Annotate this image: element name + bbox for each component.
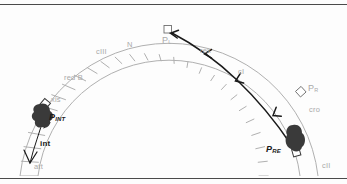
protein-blobs	[32, 103, 305, 151]
gene-label-N: N	[127, 41, 133, 49]
gene-label-att: att	[34, 163, 43, 171]
gene-label-int: int	[40, 140, 50, 148]
transcript-curve	[172, 33, 292, 146]
transcript-arrowheads	[171, 30, 300, 148]
promoter-box-PR[interactable]	[295, 86, 306, 97]
promoter-PRE-subscript: RE	[272, 148, 281, 154]
promoter-markers	[40, 26, 306, 157]
blob-re	[286, 125, 305, 152]
gene-label-cro: cro	[309, 106, 320, 114]
promoter-PR-subscript: R	[314, 87, 318, 93]
ring-outer-arc	[20, 43, 318, 176]
gene-label-cIII: cIII	[96, 48, 107, 56]
gene-label-rex: rex	[200, 47, 211, 55]
genome-ring	[20, 43, 318, 176]
gene-label-cII: cII	[322, 162, 331, 170]
promoter-PINT-subscript: INT	[55, 116, 65, 122]
transcript-curve-group	[171, 30, 300, 148]
gene-label-xis: xis	[51, 96, 61, 104]
promoter-PL-subscript: L	[168, 39, 171, 45]
promoter-box-PL[interactable]	[164, 26, 172, 34]
promoter-label-PL: PL	[162, 36, 171, 46]
lambda-phage-genome-diagram: att int xis red B cIII N rex cI cro cII …	[0, 0, 347, 184]
promoter-label-PR: PR	[308, 84, 318, 94]
gene-label-redB: red B	[64, 74, 83, 82]
gene-label-cI: cI	[238, 68, 244, 76]
promoter-label-PRE: PRE	[266, 145, 281, 154]
promoter-label-PINT: PINT	[49, 113, 65, 122]
diagram-canvas	[0, 0, 347, 184]
